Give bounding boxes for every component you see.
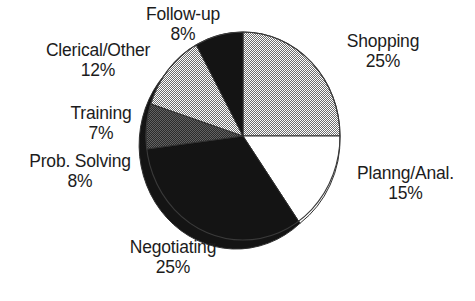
pie-label-clerical-other: Clerical/Other 12%	[10, 41, 186, 81]
pie-label-prob-solving: Prob. Solving 8%	[0, 152, 160, 192]
pie-label-clerical-other-name: Clerical/Other	[10, 41, 186, 61]
pie-label-follow-up: Follow-up 8%	[108, 5, 258, 45]
pie-chart: Follow-up 8% Clerical/Other 12% Training…	[0, 0, 475, 301]
pie-label-negotiating: Negotiating 25%	[93, 238, 253, 278]
pie-label-training: Training 7%	[36, 104, 166, 144]
pie-label-clerical-other-value: 12%	[10, 61, 186, 81]
pie-label-follow-up-name: Follow-up	[108, 5, 258, 25]
pie-label-negotiating-value: 25%	[93, 258, 253, 278]
pie-label-shopping-name: Shopping	[312, 32, 454, 52]
pie-label-shopping-value: 25%	[312, 52, 454, 72]
pie-label-training-name: Training	[36, 104, 166, 124]
pie-label-planng-anal: Planng/Anal. 15%	[336, 164, 475, 204]
pie-label-planng-anal-name: Planng/Anal.	[336, 164, 475, 184]
pie-label-negotiating-name: Negotiating	[93, 238, 253, 258]
pie-label-shopping: Shopping 25%	[312, 32, 454, 72]
pie-label-prob-solving-value: 8%	[0, 172, 160, 192]
pie-label-training-value: 7%	[36, 124, 166, 144]
pie-label-planng-anal-value: 15%	[336, 184, 475, 204]
pie-label-prob-solving-name: Prob. Solving	[0, 152, 160, 172]
